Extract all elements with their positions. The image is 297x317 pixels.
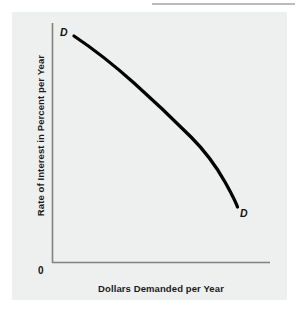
y-axis-title: Rate of Interest in Percent per Year xyxy=(35,36,46,236)
x-axis-title: Dollars Demanded per Year xyxy=(52,283,270,294)
demand-curve-label-upper: D xyxy=(60,26,68,38)
origin-label: 0 xyxy=(38,265,44,276)
demand-curve-path xyxy=(74,36,238,207)
chart-screenshot: Rate of Interest in Percent per Year Dol… xyxy=(0,0,297,317)
demand-curve-label-lower: D xyxy=(240,207,248,219)
